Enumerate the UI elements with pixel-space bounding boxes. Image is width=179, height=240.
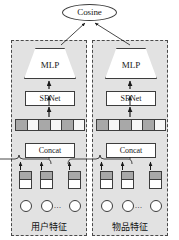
item-senet-label: SENet [121,95,142,103]
user-feature-block-top [41,172,52,180]
item-feature-group: ... [97,160,165,218]
item-mlp-block: MLP [105,48,157,79]
item-senet-block: SENet [106,91,156,106]
user-mlp-label: MLP [24,48,76,79]
item-embedding-cell [155,120,166,130]
item-embedding-cell [97,120,109,130]
user-feature-circle [41,200,53,212]
item-feature-block-top [122,172,133,180]
item-feature-block-top [101,172,112,180]
item-embedding-cell [109,120,121,130]
item-feature-block [121,171,134,189]
user-embedding-cell [74,120,85,130]
user-embedding-cell [16,120,28,130]
two-tower-architecture-diagram: Cosine MLP SENet Concat . [0,0,179,240]
item-embedding-row [96,119,166,131]
user-tower-panel: MLP SENet Concat ... 用户特征 [11,40,87,236]
user-feature-block-top [20,172,31,180]
item-feature-circle [122,200,134,212]
user-feature-circle [69,200,81,212]
item-embedding-cell [132,120,144,130]
user-mlp-block: MLP [24,48,76,79]
user-feature-circle [20,200,32,212]
item-tower-panel: MLP SENet Concat ... 物品特征 [92,40,168,236]
user-tower-caption: 用户特征 [12,223,86,232]
item-embedding-cell [120,120,132,130]
item-feature-block [149,171,162,189]
item-concat-label: Concat [120,147,143,155]
user-embedding-row [15,119,85,131]
cosine-output-node: Cosine [62,4,117,21]
user-feature-block-top [69,172,80,180]
item-embedding-cell [143,120,155,130]
item-mlp-label: MLP [105,48,157,79]
user-feature-group: ... [16,160,84,218]
user-embedding-cell [62,120,74,130]
user-feature-block [40,171,53,189]
user-embedding-cell [28,120,40,130]
user-feature-ellipsis: ... [54,202,62,210]
item-feature-circle [150,200,162,212]
user-concat-block: Concat [25,143,75,158]
user-feature-block [19,171,32,189]
user-embedding-cell [39,120,51,130]
user-feature-block [68,171,81,189]
user-senet-block: SENet [25,91,75,106]
item-concat-block: Concat [106,143,156,158]
item-feature-block-top [150,172,161,180]
item-feature-circle [101,200,113,212]
user-senet-label: SENet [40,95,61,103]
user-embedding-cell [51,120,63,130]
item-tower-caption: 物品特征 [93,223,167,232]
user-concat-label: Concat [39,147,62,155]
item-feature-block [100,171,113,189]
cosine-node-label: Cosine [77,8,101,17]
item-feature-ellipsis: ... [135,202,143,210]
